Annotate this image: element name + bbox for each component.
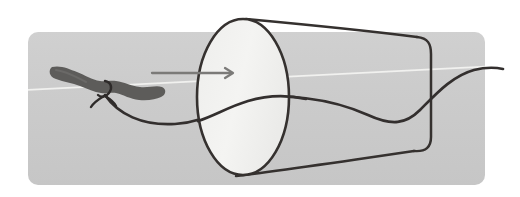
diagram-canvas: [0, 0, 520, 197]
figure-root: [0, 0, 520, 197]
